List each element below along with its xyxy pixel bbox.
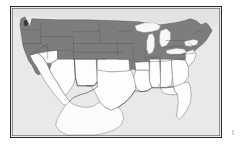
- state-mississippi: [150, 59, 161, 88]
- map-frame: [10, 6, 222, 138]
- state-oklahoma: [97, 59, 130, 72]
- us-choropleth-map: [12, 8, 220, 136]
- arkansas-louisiana-notch: [135, 61, 150, 70]
- figure-page: [0, 0, 241, 149]
- map-canvas: [12, 8, 220, 136]
- scan-artifact-speck: [232, 130, 234, 135]
- state-alabama: [161, 59, 173, 88]
- state-new-mexico: [74, 59, 97, 86]
- state-louisiana: [134, 70, 152, 92]
